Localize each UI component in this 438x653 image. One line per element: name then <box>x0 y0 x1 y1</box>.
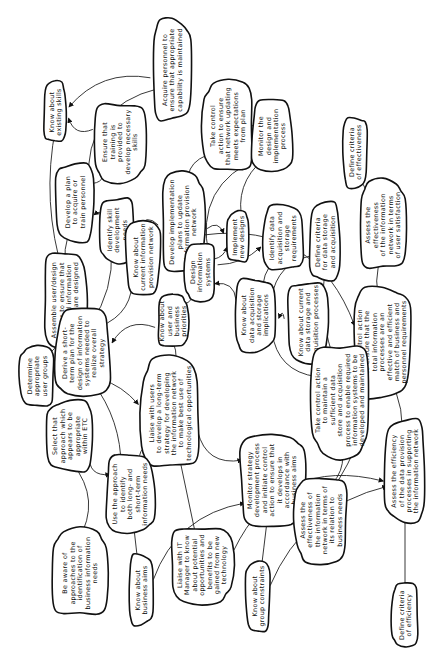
node-label-line: provision network <box>147 226 155 288</box>
node-label-line: technological opportunities <box>185 365 193 461</box>
node-be-aware: Be aware ofapproaches to theidentificati… <box>52 527 108 615</box>
node-label-line: of efficiency <box>405 594 413 637</box>
node-label-line: implications <box>262 294 270 337</box>
node-know-business-aims: Know aboutbusiness aims <box>129 554 153 626</box>
node-label-line: user groups <box>41 355 49 397</box>
concept-map: Know aboutexisting skillsAcquire personn… <box>0 0 438 653</box>
node-select-approach: Select thatapproach whichappears to beap… <box>46 400 92 472</box>
node-label-line: requirements <box>290 214 298 261</box>
node-define-criteria-efficiency: Define criteriaof efficiency <box>391 583 418 647</box>
node-existing-skills: Know aboutexisting skills <box>44 81 67 142</box>
node-label-line: new designs <box>238 215 246 258</box>
node-ensure-training: Ensure thattraining isprovided todevelop… <box>94 104 146 184</box>
node-label-line: priorities <box>180 305 188 337</box>
edge-design-systems-to-implement-designs <box>214 247 227 259</box>
edge-acquire-personnel-to-existing-skills <box>69 76 150 107</box>
node-label-line: existing skills <box>55 88 63 136</box>
node-liaise-it-manager: Liaise with ITManager to knowabout poten… <box>172 529 235 605</box>
edge-liaise-users-to-monitor-strategy <box>198 431 242 461</box>
node-label-line: of user satisfaction <box>394 192 402 259</box>
node-define-criteria-storage: Define criteriafor data storageand acqui… <box>310 201 341 281</box>
node-label-line: needs <box>91 562 99 583</box>
node-know-data-implications: Know aboutdata acquisitionand storageimp… <box>235 278 275 352</box>
node-label-line: within ETC <box>81 418 89 455</box>
node-label-line: personnel requirements <box>400 300 408 383</box>
node-label-line: and acquisition <box>329 215 337 268</box>
edge-develop-implementation-to-implement-designs <box>207 225 223 233</box>
node-monitor-design: Monitor thedesign andimplementationproce… <box>251 99 292 171</box>
node-define-criteria-effectiveness: Define criteriaof effectiveness <box>343 117 368 188</box>
edge-know-user-priorities-to-derive-short-term <box>112 324 155 342</box>
node-design-systems: Designinformationsystems <box>184 244 214 302</box>
node-derive-short-term: Derive a short-term plan for thedesign o… <box>55 308 111 396</box>
node-assess-business-needs: Assess theeffectiveness ofthe informatio… <box>294 478 347 564</box>
nodes-layer: Know aboutexisting skillsAcquire personn… <box>19 18 425 647</box>
node-know-user-priorities: Know aboutuser andbusinesspriorities <box>158 294 189 346</box>
node-label-line: process <box>279 122 287 149</box>
node-implement-designs: Implementnew designs <box>227 211 249 263</box>
node-assess-efficiency: Assess the efficiencyof the data provisi… <box>384 418 424 523</box>
edge-know-current-data-to-know-data-implications <box>279 313 284 319</box>
node-label-line: of effectiveness <box>355 124 363 180</box>
node-label-line: group constraints <box>258 565 266 627</box>
node-label-line: business needs <box>336 493 344 547</box>
node-develop-plan: Develop a planto acquire ortrain personn… <box>55 163 94 243</box>
node-label-line: from plan <box>239 109 247 142</box>
node-label-line: information needs <box>141 462 149 526</box>
node-label-line: the information network <box>412 429 420 513</box>
node-assess-user-satisfaction: Assess theeffectivenessof the informatio… <box>361 178 407 268</box>
node-know-current-network: Know aboutcurrent informationprovision n… <box>125 221 160 295</box>
node-acquire-personnel: Acquire personnel toensure that appropri… <box>153 18 191 121</box>
edge-know-data-implications-to-design-systems <box>215 283 236 300</box>
node-label-line: skills <box>131 133 139 151</box>
node-liaise-users: Liaise with usersto develop a long-terms… <box>140 355 199 466</box>
node-label-line: network <box>190 208 198 236</box>
node-label-line: train personnel <box>79 175 87 228</box>
edge-select-approach-to-use-approach <box>89 455 110 475</box>
node-label-line: developed and maintained <box>358 354 366 447</box>
node-label-line: strategy <box>98 338 106 367</box>
node-label-line: systems <box>204 257 212 286</box>
node-use-approach: Use the approachto identifyboth long- an… <box>106 455 155 534</box>
node-label-line: technology <box>220 546 228 585</box>
node-label-line: capability is maintained <box>176 28 184 112</box>
node-identify-data-acq: Identify dataacquisition andstoragerequi… <box>263 204 304 269</box>
node-take-control-network: Take controlaction to ensurethat network… <box>201 79 252 170</box>
node-label-line: business aims <box>141 565 149 614</box>
node-know-group-constraints: Know aboutgroup constraints <box>245 561 270 632</box>
node-determine-user-groups: Determineappropriateuser groups <box>19 345 54 406</box>
edge-ensure-training-to-existing-skills <box>69 118 93 131</box>
node-take-control-data-store: Take control actionto maintain asufficie… <box>310 346 368 460</box>
